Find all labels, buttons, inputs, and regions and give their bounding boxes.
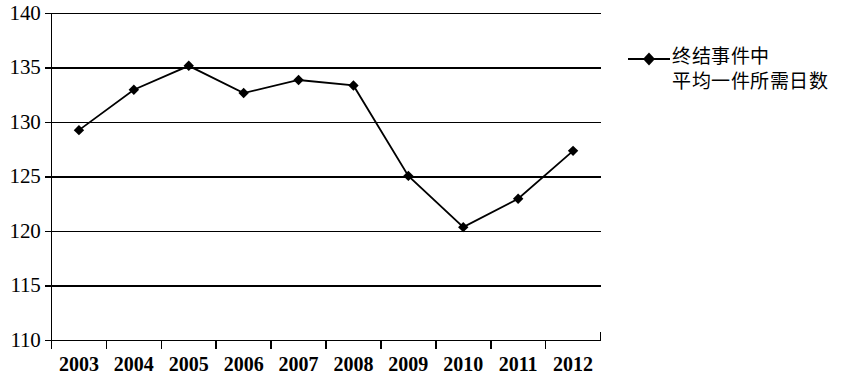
y-axis-tick-label: 140: [0, 3, 41, 24]
line-chart: 140135130125120115110 200320042005200620…: [0, 0, 850, 378]
y-axis-ticks: [45, 14, 52, 341]
legend-label: 终结事件中 平均一件所需日数: [672, 44, 828, 93]
data-point-marker: [348, 80, 358, 90]
x-axis-tick-label: 2003: [52, 354, 107, 374]
y-axis-tick-label: 135: [0, 57, 41, 78]
x-axis-ticks: [52, 341, 546, 349]
data-point-marker: [184, 61, 194, 71]
x-axis-tick-label: 2004: [106, 354, 161, 374]
data-point-marker: [293, 75, 303, 85]
data-point-marker: [238, 88, 248, 98]
y-axis-tick-label: 130: [0, 112, 41, 133]
x-axis-tick-label: 2008: [326, 354, 381, 374]
x-axis-tick-label: 2006: [216, 354, 271, 374]
x-axis-tick-label: 2010: [436, 354, 491, 374]
x-axis-tick-label: 2012: [546, 354, 601, 374]
legend-label-line-1: 终结事件中: [672, 44, 828, 69]
y-axis-tick-label: 110: [0, 330, 41, 351]
y-axis-tick-label: 120: [0, 221, 41, 242]
x-axis-tick-label: 2007: [271, 354, 326, 374]
y-axis-tick-label: 115: [0, 275, 41, 296]
gridlines: [52, 14, 601, 341]
x-axis-tick-label: 2011: [491, 354, 546, 374]
x-axis-tick-label: 2005: [161, 354, 216, 374]
chart-legend: 终结事件中 平均一件所需日数: [628, 44, 828, 93]
diamond-marker-icon: [628, 51, 670, 67]
y-axis-tick-label: 125: [0, 166, 41, 187]
x-axis-tick-label: 2009: [381, 354, 436, 374]
legend-label-line-2: 平均一件所需日数: [672, 69, 828, 94]
data-series-line: [79, 66, 573, 227]
